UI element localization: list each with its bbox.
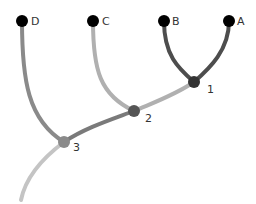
edge-1-2 xyxy=(134,82,194,111)
leaf-node-b xyxy=(158,15,170,27)
edge-b-1 xyxy=(164,21,194,82)
edge-a-1 xyxy=(194,21,229,82)
leaf-node-d xyxy=(16,15,28,27)
edge-d-3 xyxy=(22,21,64,142)
leaf-label-a: A xyxy=(237,15,245,28)
edge-c-2 xyxy=(93,21,134,111)
internal-label-2: 2 xyxy=(145,112,152,125)
leaf-node-c xyxy=(87,15,99,27)
leaf-label-d: D xyxy=(31,15,39,28)
leaf-label-b: B xyxy=(172,15,180,28)
dendrogram: D C B A 1 2 3 xyxy=(0,0,256,204)
leaf-node-a xyxy=(223,15,235,27)
edge-3-root xyxy=(21,142,64,200)
internal-node-3 xyxy=(58,136,70,148)
edge-2-3 xyxy=(64,111,134,142)
internal-label-3: 3 xyxy=(73,141,80,154)
internal-label-1: 1 xyxy=(207,83,214,96)
internal-node-1 xyxy=(188,76,200,88)
internal-node-2 xyxy=(128,105,140,117)
leaf-label-c: C xyxy=(102,15,110,28)
